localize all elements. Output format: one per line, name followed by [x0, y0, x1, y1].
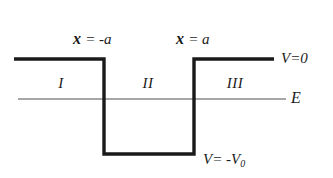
- potential-well-curve: [14, 59, 274, 154]
- boundary-label-right: x = a: [176, 31, 210, 47]
- potential-well-figure: x = -a x = a I II III V=0 E V= -V0: [0, 0, 333, 178]
- boundary-right-relation: = a: [185, 31, 210, 47]
- zero-potential-label: V=0: [281, 51, 308, 66]
- well-depth-prefix: V= -V: [203, 151, 240, 167]
- boundary-right-variable: x: [176, 30, 185, 47]
- region-label-iii: III: [227, 76, 244, 91]
- well-depth-subscript: 0: [240, 158, 245, 169]
- region-label-i: I: [58, 76, 64, 91]
- well-depth-label: V= -V0: [203, 152, 245, 167]
- boundary-label-left: x = -a: [73, 31, 112, 47]
- boundary-left-variable: x: [73, 30, 82, 47]
- potential-well-plot: [0, 0, 333, 178]
- boundary-left-relation: = -a: [82, 31, 112, 47]
- energy-level-label: E: [291, 90, 301, 106]
- region-label-ii: II: [143, 76, 154, 91]
